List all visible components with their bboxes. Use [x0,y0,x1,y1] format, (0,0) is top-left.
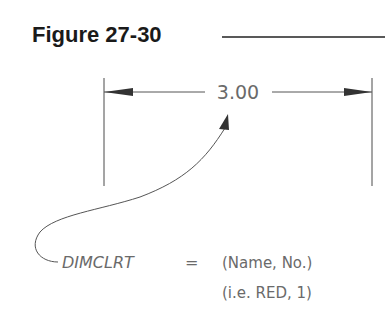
dimension-text: 3.00 [217,81,259,103]
right-arrowhead-icon [344,88,372,96]
annotation-line-1: (Name, No.) [222,254,312,272]
equals-sign: = [185,253,198,272]
annotation-line-2: (i.e. RED, 1) [222,284,312,302]
dimension-diagram: 3.00 DIMCLRT = (Name, No.) (i.e. RED, 1) [0,0,388,330]
left-arrowhead-icon [104,88,133,96]
variable-name: DIMCLRT [62,253,135,272]
leader-line [35,128,225,262]
leader-arrowhead-icon [219,114,229,130]
